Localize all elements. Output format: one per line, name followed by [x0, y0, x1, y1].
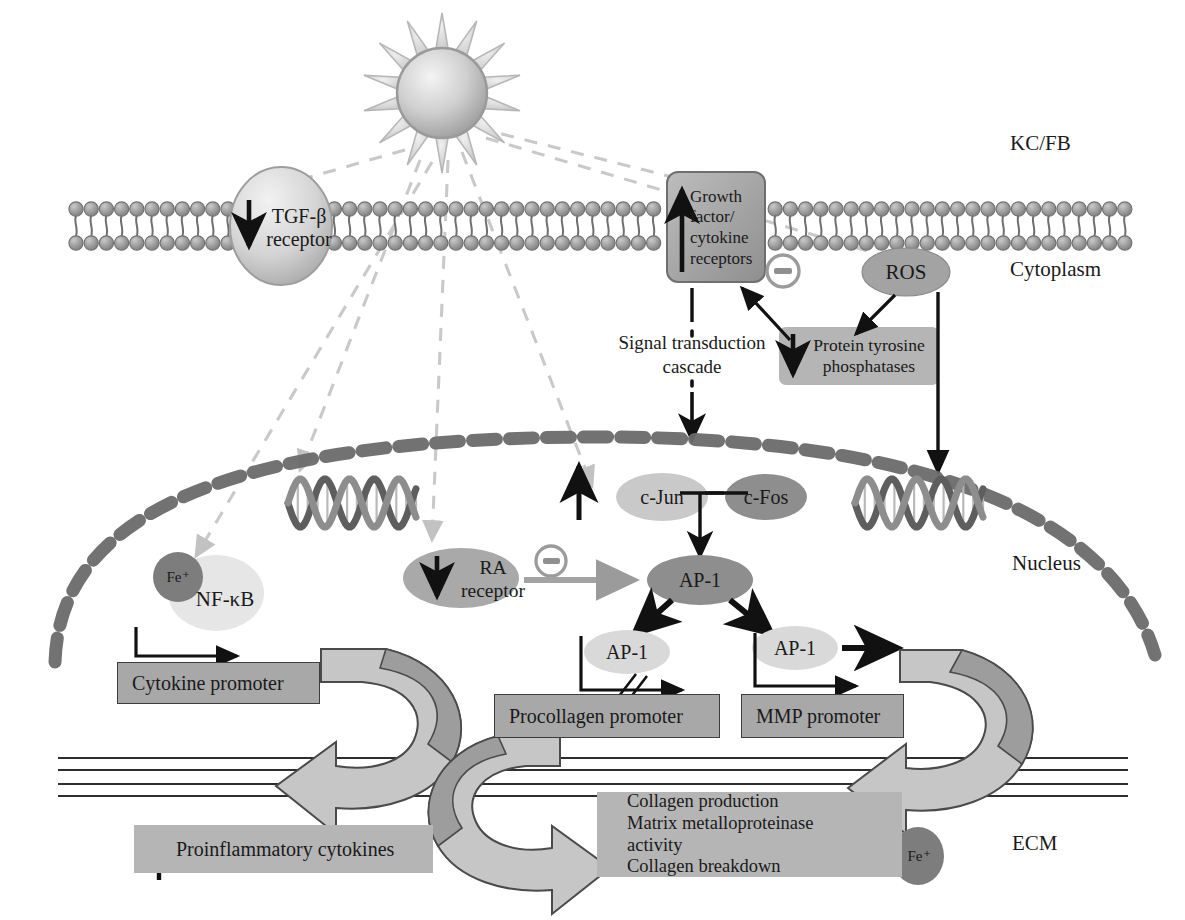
gfr-receptor-label: Growth factor/ cytokine receptors [690, 180, 766, 276]
ecm-effect-line-1: Collagen production [627, 791, 902, 813]
dna-helix-left [288, 479, 416, 527]
ptp-label: Protein tyrosine phosphatases [802, 330, 936, 382]
gfr-line-2: factor/ [690, 207, 734, 228]
ecm-effect-line-2: Matrix metalloproteinase [627, 813, 902, 835]
gfr-line-4: receptors [690, 249, 752, 270]
compartment-label-kcfb: KC/FB [1010, 132, 1071, 156]
ap1-branch-arrows [634, 600, 772, 634]
ra-line-2: receptor [461, 580, 525, 603]
gfr-line-1: Growth [690, 187, 742, 208]
dna-helix-right [855, 479, 983, 527]
curved-arrow-procollagen [428, 736, 610, 914]
ecm-effect-line-3: activity [627, 835, 902, 857]
mmp-promoter-label: MMP promoter [756, 705, 880, 728]
fe-ecm-label: Fe⁺ [894, 845, 944, 867]
proinflammatory-label: Proinflammatory cytokines [176, 838, 394, 861]
cascade-line-1: Signal transduction [618, 331, 765, 355]
ap1-right-label: AP-1 [753, 635, 837, 661]
ros-label: ROS [862, 258, 950, 286]
cfos-label: c-Fos [726, 484, 806, 510]
tgfb-receptor-label: TGF-β receptor [256, 200, 342, 256]
signal-cascade-label: Signal transduction cascade [590, 328, 794, 382]
procollagen-promoter-label: Procollagen promoter [509, 705, 683, 728]
ecm-effect-line-4: Collagen breakdown [627, 856, 902, 878]
diagram-graphics [0, 0, 1185, 920]
inhibition-symbol-ptp [767, 255, 799, 287]
cjun-label: c-Jun [618, 484, 706, 510]
nfkb-to-promoter-arrow [136, 627, 237, 656]
pathway-diagram: KC/FB Cytoplasm Nucleus ECM TGF-β recept… [0, 0, 1185, 920]
mmp-promoter-box: MMP promoter [741, 694, 904, 738]
cascade-line-2: cascade [662, 355, 721, 379]
ra-receptor-label: RA receptor [444, 556, 542, 604]
ecm-effects-box: Collagen production Matrix metalloprotei… [597, 792, 902, 877]
cytokine-promoter-label: Cytokine promoter [132, 672, 284, 695]
fe-nucleus-label: Fe⁺ [152, 566, 204, 588]
ap1-left-label: AP-1 [585, 639, 669, 665]
uv-sun-icon [364, 13, 520, 173]
ap1-main-label: AP-1 [656, 567, 744, 593]
ra-line-1: RA [479, 557, 506, 580]
plasma-membrane [69, 202, 1132, 250]
compartment-label-ecm: ECM [1012, 832, 1058, 856]
ptp-line-1: Protein tyrosine [813, 335, 924, 356]
nfkb-label: NF-κB [178, 586, 272, 612]
compartment-label-nucleus: Nucleus [1012, 552, 1081, 576]
proinflammatory-box: Proinflammatory cytokines [134, 825, 433, 873]
compartment-label-cytoplasm: Cytoplasm [1010, 258, 1101, 282]
gfr-line-3: cytokine [690, 228, 749, 249]
procollagen-promoter-box: Procollagen promoter [494, 694, 720, 738]
ptp-line-2: phosphatases [823, 356, 915, 377]
tgfb-line-2: receptor [266, 228, 332, 251]
tgfb-line-1: TGF-β [272, 205, 327, 228]
cytokine-promoter-box: Cytokine promoter [117, 662, 320, 704]
